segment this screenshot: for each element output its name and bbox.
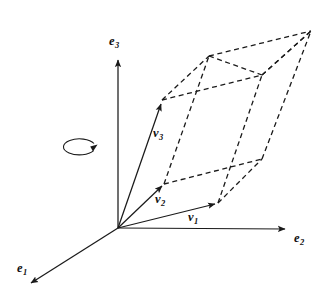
edge-v3-to-v1v3 bbox=[162, 75, 262, 100]
axis-e2-line bbox=[118, 228, 285, 229]
rotation-arc bbox=[63, 139, 94, 155]
label-v2-base: v bbox=[155, 192, 161, 206]
edge-v1-to-v1v3 bbox=[218, 75, 262, 203]
vector-v3-line bbox=[118, 104, 161, 228]
edge-v2v3-to-v1v3-diagonal bbox=[209, 56, 262, 75]
coordinate-axes bbox=[31, 60, 285, 283]
label-e1-base: e bbox=[17, 261, 23, 275]
label-v2-sub: 2 bbox=[161, 198, 165, 208]
label-v1-sub: 1 bbox=[194, 216, 198, 226]
label-v3-base: v bbox=[153, 126, 159, 140]
label-e3-sub: 3 bbox=[115, 40, 119, 50]
rotation-indicator bbox=[63, 139, 97, 155]
label-e1-sub: 1 bbox=[23, 267, 27, 277]
label-v3-sub: 3 bbox=[159, 132, 163, 142]
label-e2-base: e bbox=[294, 231, 300, 245]
label-e2: e2 bbox=[294, 232, 304, 245]
edge-v2-to-v1v2 bbox=[164, 159, 262, 184]
vector-v1-line bbox=[118, 204, 215, 228]
label-e3: e3 bbox=[109, 35, 119, 48]
label-e1: e1 bbox=[17, 262, 27, 275]
label-v3: v3 bbox=[153, 127, 163, 140]
label-v2: v2 bbox=[155, 193, 165, 206]
vector-diagram-figure: e1 e2 e3 v1 v2 v3 bbox=[0, 0, 329, 302]
label-e3-base: e bbox=[109, 34, 115, 48]
edge-v2-to-v2v3 bbox=[164, 56, 209, 184]
edge-v2v3-to-v1v2v3 bbox=[209, 31, 311, 56]
label-v1: v1 bbox=[188, 211, 198, 224]
label-v1-base: v bbox=[188, 210, 194, 224]
rotation-arrowhead-icon bbox=[90, 144, 97, 151]
edge-v1-to-v1v2 bbox=[218, 159, 262, 203]
basis-vectors bbox=[118, 104, 215, 228]
diagram-canvas bbox=[0, 0, 329, 302]
label-e2-sub: 2 bbox=[300, 237, 304, 247]
parallelepiped-dashed-edges bbox=[162, 31, 311, 203]
axis-e1-line bbox=[31, 228, 118, 283]
edge-v1v2-to-v1v2v3 bbox=[262, 31, 311, 159]
